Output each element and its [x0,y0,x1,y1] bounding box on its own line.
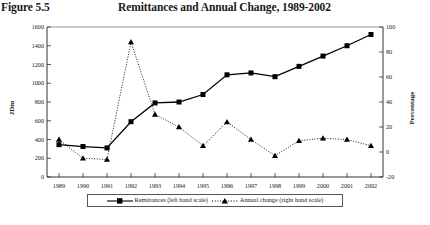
legend-label-annual-change: Annual change (right hand scale) [240,197,324,203]
data-point-marker [200,143,206,148]
legend-item-remittances: Remittances (left hand scale) [107,197,208,205]
data-point-marker [128,39,134,44]
tick-label: 80 [386,48,392,55]
tick-label: 200 [35,154,44,161]
data-point-marker [152,112,158,117]
tick-label: 2001 [341,182,353,189]
figure-header: Figure 5.5 Remittances and Annual Change… [0,0,430,18]
data-point-marker [345,43,350,48]
tick-label: 1998 [269,182,281,189]
tick-label: 0 [386,148,389,155]
y-axis-left-ticks: 02004006008001000120014001600 [32,23,51,180]
y-axis-left-title: JDm [8,101,16,116]
data-point-marker [249,70,254,75]
tick-label: 20 [386,123,392,130]
data-point-marker [80,155,86,160]
data-point-marker [201,92,206,97]
y-axis-right-title: Percentage [408,92,416,125]
legend-swatch-solid-square-icon [107,197,133,205]
tick-label: 1000 [32,79,44,86]
tick-label: 1996 [221,182,233,189]
tick-label: 1200 [32,61,44,68]
tick-label: 1400 [32,42,44,49]
tick-label: 1600 [32,23,44,30]
tick-label: 0 [41,173,44,180]
tick-label: 1989 [53,182,65,189]
tick-label: 600 [35,117,44,124]
figure-number-label: Figure 5.5 [1,1,50,13]
data-point-marker [57,142,62,147]
data-series-layer [56,32,374,162]
data-point-marker [176,124,182,129]
data-point-marker [129,119,134,124]
tick-label: 1993 [149,182,161,189]
axis-frame [47,27,383,177]
tick-label: 2002 [365,182,377,189]
series-line [59,35,371,148]
data-point-marker [369,32,374,37]
figure-title: Remittances and Annual Change, 1989-2002 [118,1,331,13]
tick-label: -20 [386,173,394,180]
tick-label: 40 [386,98,392,105]
x-axis-ticks: 1989199019911992199319941995199619971998… [53,173,377,189]
data-point-marker [225,72,230,77]
data-point-marker [272,153,278,158]
tick-label: 1995 [197,182,209,189]
tick-label: 800 [35,98,44,105]
y-axis-right-ticks: -20020406080100 [379,23,395,180]
data-point-marker [153,100,158,105]
chart-legend: Remittances (left hand scale) Annual cha… [87,194,343,207]
tick-label: 1990 [77,182,89,189]
legend-swatch-dotted-triangle-icon [212,197,238,205]
series-line [59,42,371,160]
tick-label: 60 [386,73,392,80]
series-1 [57,32,374,150]
tick-label: 400 [35,136,44,143]
tick-label: 1992 [125,182,137,189]
legend-item-annual-change: Annual change (right hand scale) [212,197,324,205]
data-point-marker [177,100,182,105]
tick-label: 1997 [245,182,257,189]
legend-label-remittances: Remittances (left hand scale) [135,197,208,203]
tick-label: 100 [386,23,395,30]
tick-label: 1999 [293,182,305,189]
data-point-marker [273,74,278,79]
data-point-marker [297,64,302,69]
data-point-marker [248,137,254,142]
series-2 [56,39,374,162]
data-point-marker [321,54,326,59]
tick-label: 1994 [173,182,185,189]
data-point-marker [81,144,86,149]
tick-label: 1991 [101,182,113,189]
data-point-marker [344,137,350,142]
data-point-marker [296,138,302,143]
data-point-marker [56,137,62,142]
data-point-marker [105,145,110,150]
data-point-marker [224,119,230,124]
tick-label: 2000 [317,182,329,189]
